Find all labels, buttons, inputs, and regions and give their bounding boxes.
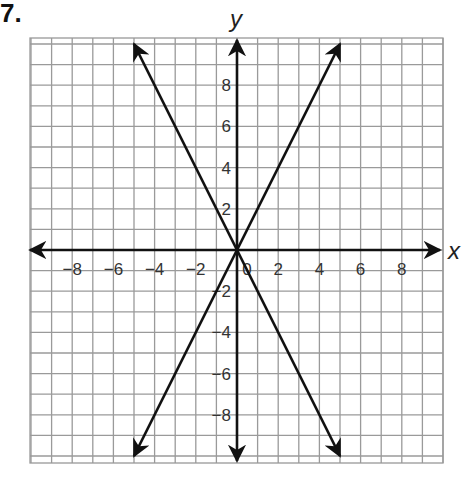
y-tick-label: −8 [212, 406, 231, 425]
y-tick-label: 4 [222, 159, 231, 178]
x-tick-label: 6 [356, 260, 365, 279]
x-tick-label: 8 [397, 260, 406, 279]
x-tick-label: −2 [186, 260, 205, 279]
x-tick-label: 4 [315, 260, 324, 279]
x-axis-label: x [447, 237, 461, 264]
x-tick-label: −6 [104, 260, 123, 279]
y-tick-label: 8 [222, 76, 231, 95]
y-tick-label: −4 [212, 323, 231, 342]
y-tick-label: −2 [212, 282, 231, 301]
y-tick-label: −6 [212, 365, 231, 384]
x-tick-label: 2 [273, 260, 282, 279]
y-tick-label: 6 [222, 117, 231, 136]
x-tick-label: −4 [145, 260, 164, 279]
y-axis-label: y [228, 5, 244, 32]
x-tick-label: −8 [63, 260, 82, 279]
y-tick-label: 2 [222, 200, 231, 219]
coordinate-plane: xy−8−6−4−202468−8−6−4−22468 [0, 0, 474, 480]
